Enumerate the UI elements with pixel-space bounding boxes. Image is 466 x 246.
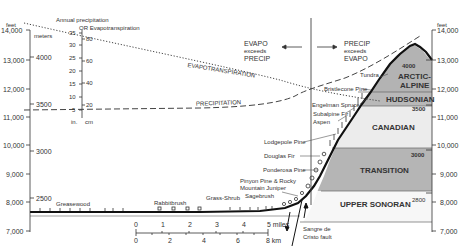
precip-in-tick: 35: [69, 30, 76, 36]
precip-exceeds-label-1: PRECIP: [344, 40, 370, 47]
scale-miles-tick: 3: [215, 221, 219, 228]
veg-label-rabbitbrush: Rabbitbrush: [154, 200, 186, 206]
veg-label-sagebrush: Sagebrush: [245, 193, 274, 199]
zone-canadian-elev: 3500: [412, 106, 425, 112]
left-feet-tick: 10,000: [3, 142, 24, 149]
precip-in-tick: 5: [72, 107, 75, 113]
zone-canadian-label: CANADIAN: [372, 124, 415, 132]
zone-arctic-alpine-label-2: ALPINE: [400, 82, 429, 90]
scale-miles-tick: 0: [134, 221, 138, 228]
scale-km-tick: 0: [134, 237, 138, 244]
scale-km-tick: 2: [168, 237, 172, 244]
precip-cm-tick: 80: [86, 36, 93, 42]
scale-miles-tick: 5 miles: [267, 221, 289, 228]
right-feet-tick: 10,000: [437, 142, 458, 149]
zone-upper-sonoran-elev: 2800: [412, 197, 425, 203]
precip-in-label: in.: [71, 119, 77, 125]
right-feet-tick: 9,000: [440, 171, 458, 178]
right-feet-tick: 12,000: [437, 86, 458, 93]
left-meters-unit: meters: [34, 33, 52, 39]
right-feet-tick: 7,000: [440, 228, 458, 235]
precip-cm-tick: 20: [86, 102, 93, 108]
fault-label-2: Cristo fault: [303, 234, 332, 240]
left-meters-tick: 2500: [36, 195, 52, 202]
precip-cm-label: cm: [85, 119, 93, 125]
veg-label-douglas-fir: Douglas Fir: [264, 153, 295, 159]
veg-label-tundra: Tundra: [360, 72, 379, 78]
scale-km-tick: 4: [202, 237, 206, 244]
right-feet-tick: 14,000: [437, 27, 458, 34]
precip-in-tick: 15: [69, 81, 76, 87]
precip-cm-tick: 60: [86, 58, 93, 64]
left-feet-tick: 11,000: [3, 114, 24, 121]
precip-in-tick: 25: [69, 55, 76, 61]
left-feet-tick: 12,000: [3, 86, 24, 93]
left-meters-tick: 3500: [36, 101, 52, 108]
veg-label-grass-shrub: Grass-Shrub: [206, 195, 240, 201]
veg-label-greasewood: Greasewood: [56, 201, 90, 207]
veg-label-pinyon-pine: Pinyon Pine & Rocky: [240, 178, 296, 184]
veg-label-lodgepole-pine: Lodgepole Pine: [264, 139, 306, 145]
precip-in-tick: 30: [69, 42, 76, 48]
veg-label-bristlecone-pine: Bristlecone Pine: [324, 86, 367, 92]
zone-hudsonian-label: HUDSONIAN: [386, 96, 434, 104]
precip-axis-title-2: OR Evapotranspiration: [79, 25, 140, 31]
left-feet-tick: 13,000: [3, 57, 24, 64]
veg-label-aspen: Aspen: [313, 119, 330, 125]
scale-miles-tick: 2: [188, 221, 192, 228]
zone-transition-label: TRANSITION: [360, 167, 409, 175]
left-meters-tick: 3000: [36, 148, 52, 155]
scale-km-tick: 6: [236, 237, 240, 244]
life-zones-diagram: feet 14,000 13,000 12,000 11,000 10,000 …: [0, 0, 466, 246]
right-feet-tick: 8,000: [440, 199, 458, 206]
zone-arctic-alpine-elev: 4000: [402, 63, 415, 69]
evapo-exceeds-label-1: EVAPO: [244, 40, 268, 47]
fault-label-1: Sangre de: [303, 226, 331, 232]
precip-exceeds-label-2: exceeds: [344, 48, 366, 54]
scale-km-tick: 8 km: [266, 237, 281, 244]
veg-label-ponderosa-pine: Ponderosa Pine: [263, 167, 306, 173]
right-feet-tick: 13,000: [437, 57, 458, 64]
veg-label-engelman-spruce: Engelman Spruce: [312, 102, 360, 108]
veg-label-subalpine-fir: Subalpine Fir: [313, 111, 348, 117]
precip-axis-title-1: Annual precipitation: [56, 17, 109, 23]
evapo-exceeds-label-2: exceeds: [244, 48, 266, 54]
scale-miles-tick: 4: [242, 221, 246, 228]
zone-arctic-alpine-label: ARCTIC-: [398, 73, 431, 81]
veg-label-mountain-juniper: Mountain Juniper: [240, 185, 286, 191]
zone-upper-sonoran-label: UPPER SONORAN: [340, 201, 411, 209]
left-feet-tick: 8,000: [6, 199, 24, 206]
precip-in-tick: 20: [69, 68, 76, 74]
zone-transition-elev: 3000: [411, 152, 424, 158]
left-meters-tick: 4000: [36, 54, 52, 61]
left-feet-tick: 9,000: [6, 171, 24, 178]
evapo-exceeds-label-3: PRECIP: [244, 55, 270, 62]
scale-miles-tick: 1: [161, 221, 165, 228]
right-feet-tick: 11,000: [437, 114, 458, 121]
left-feet-tick: 14,000: [1, 27, 22, 34]
precip-exceeds-label-3: EVAPO: [344, 55, 368, 62]
left-feet-tick: 7,000: [6, 228, 24, 235]
precip-in-tick: 10: [69, 94, 76, 100]
precip-cm-tick: 40: [86, 80, 93, 86]
